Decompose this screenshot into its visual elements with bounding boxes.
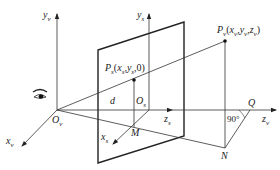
label-x-v: xv	[6, 136, 14, 149]
label-z-v: zv	[262, 114, 269, 127]
label-p-v: Pv(xv,yv,zv)	[217, 25, 260, 38]
ground-ray	[57, 110, 225, 148]
eye-icon	[33, 90, 47, 99]
label-p-s: Ps(xs,ys,0)	[105, 63, 145, 76]
label-angle: 90°	[227, 115, 240, 124]
label-q: Q	[248, 98, 255, 108]
label-n: N	[221, 151, 228, 161]
label-y-s: ys	[137, 10, 144, 23]
label-z-s: zs	[164, 114, 171, 127]
label-x-s: xs	[101, 132, 108, 145]
label-m: M	[131, 128, 139, 138]
point-ps	[132, 78, 136, 82]
point-pv	[223, 39, 227, 43]
label-o-s: Os	[136, 96, 146, 109]
label-o-v: Ov	[52, 115, 62, 128]
projection-plane	[98, 22, 184, 163]
label-y-v: yv	[43, 10, 51, 23]
label-d: d	[110, 96, 115, 106]
